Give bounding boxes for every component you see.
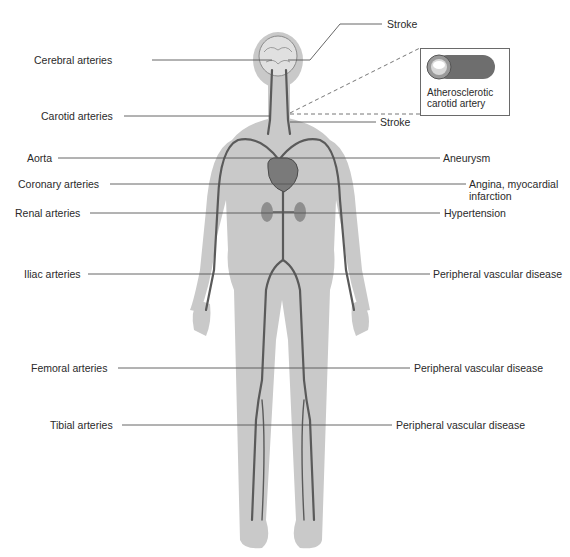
label-femoral-arteries: Femoral arteries bbox=[31, 362, 107, 374]
label-pvd-iliac: Peripheral vascular disease bbox=[433, 268, 562, 280]
inset-pointer-lines bbox=[290, 48, 420, 114]
label-hypertension: Hypertension bbox=[444, 207, 506, 219]
kidney-left-icon bbox=[261, 202, 273, 222]
label-stroke-cerebral: Stroke bbox=[387, 18, 417, 30]
label-aorta: Aorta bbox=[27, 152, 52, 164]
artery-disease-diagram: Cerebral arteries Carotid arteries Aorta… bbox=[0, 0, 570, 557]
inset-caption: Atherosclerotic carotid artery bbox=[427, 87, 511, 109]
label-coronary-arteries: Coronary arteries bbox=[18, 178, 99, 190]
label-angina: Angina, myocardial infarction bbox=[469, 178, 569, 202]
label-pvd-femoral: Peripheral vascular disease bbox=[414, 362, 543, 374]
brain-icon bbox=[259, 36, 297, 76]
label-cerebral-arteries: Cerebral arteries bbox=[34, 54, 112, 66]
inset-atherosclerotic-carotid: Atherosclerotic carotid artery bbox=[420, 48, 510, 116]
kidney-right-icon bbox=[294, 202, 306, 222]
label-stroke-carotid: Stroke bbox=[380, 116, 410, 128]
body-silhouette bbox=[190, 32, 370, 548]
label-pvd-tibial: Peripheral vascular disease bbox=[396, 419, 525, 431]
label-iliac-arteries: Iliac arteries bbox=[24, 268, 81, 280]
label-aneurysm: Aneurysm bbox=[443, 152, 490, 164]
label-renal-arteries: Renal arteries bbox=[15, 207, 80, 219]
label-tibial-arteries: Tibial arteries bbox=[50, 419, 113, 431]
artery-cross-section-icon bbox=[421, 49, 509, 85]
label-carotid-arteries: Carotid arteries bbox=[41, 110, 113, 122]
